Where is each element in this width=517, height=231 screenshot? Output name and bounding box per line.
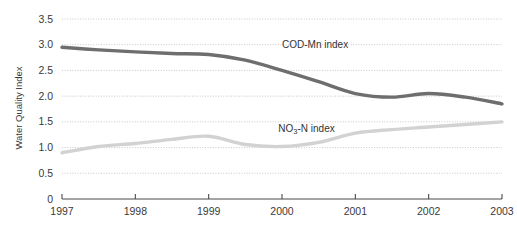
y-tick-label: 3.0 xyxy=(38,38,53,50)
y-tick-label: 3.5 xyxy=(38,13,53,25)
chart-canvas: 00.51.01.52.02.53.03.5 19971998199920002… xyxy=(0,0,517,231)
x-tick-label: 2003 xyxy=(490,205,514,217)
y-tick-label: 1.0 xyxy=(38,141,53,153)
chart-background xyxy=(0,0,517,231)
y-tick-label: 1.5 xyxy=(38,115,53,127)
y-tick-label: 0.5 xyxy=(38,167,53,179)
y-axis-title: Water Quality Index xyxy=(13,66,24,149)
x-tick-label: 2002 xyxy=(417,205,441,217)
x-tick-label: 2001 xyxy=(344,205,368,217)
y-tick-label: 0 xyxy=(47,193,53,205)
water-quality-index-chart: 00.51.01.52.02.53.03.5 19971998199920002… xyxy=(0,0,517,231)
series-label: COD-Mn index xyxy=(282,39,348,50)
y-tick-label: 2.0 xyxy=(38,90,53,102)
x-tick-label: 1998 xyxy=(124,205,148,217)
x-tick-label: 1997 xyxy=(50,205,74,217)
x-tick-label: 2000 xyxy=(270,205,294,217)
y-tick-label: 2.5 xyxy=(38,64,53,76)
x-tick-label: 1999 xyxy=(197,205,221,217)
